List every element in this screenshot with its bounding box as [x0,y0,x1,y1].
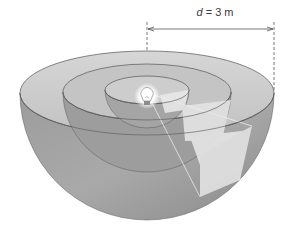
diagram-canvas: d = 3 m [0,0,286,237]
distance-variable: d [196,6,202,18]
dimension-label: d = 3 m [190,6,240,18]
equals-sign: = [206,6,212,18]
hemispheres-diagram [0,0,286,237]
lightbulb-icon [134,83,160,109]
distance-value: 3 m [215,6,233,18]
